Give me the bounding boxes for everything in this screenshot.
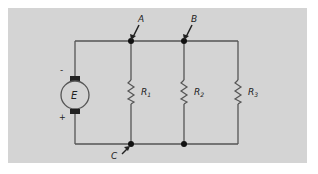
source-label: E <box>71 90 78 101</box>
circuit-diagram: E - + R1 R2 R3 A B C <box>0 0 318 174</box>
positive-sign: + <box>59 113 66 122</box>
positive-brush <box>70 109 80 114</box>
negative-sign: - <box>60 65 63 75</box>
node-label: C <box>111 151 118 161</box>
negative-brush <box>70 76 80 81</box>
diagram-panel <box>8 8 307 163</box>
junction-dot-c <box>128 141 134 147</box>
node-label: A <box>137 14 144 24</box>
junction-dot-bottom <box>181 141 187 147</box>
node-label: B <box>191 14 197 24</box>
